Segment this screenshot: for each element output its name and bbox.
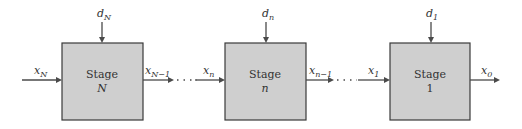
stage-block-N: Stage N dN xN xN−1	[22, 7, 174, 120]
stage-title: Stage	[249, 68, 281, 81]
stage-index: 1	[427, 82, 434, 95]
decision-label: dn	[262, 7, 274, 22]
decision-label: d1	[426, 7, 438, 22]
stage-title: Stage	[86, 68, 118, 81]
stage-title: Stage	[414, 68, 446, 81]
arrowhead-icon	[428, 37, 434, 43]
output-label: x0	[481, 64, 492, 79]
arrowhead-icon	[219, 77, 225, 83]
stage-block-1: Stage 1 d1 x1 x0	[358, 7, 500, 120]
input-label: x1	[368, 64, 379, 79]
stage-index: n	[261, 82, 268, 95]
arrowhead-icon	[494, 77, 500, 83]
output-label: xn−1	[309, 64, 332, 79]
arrowhead-icon	[56, 77, 62, 83]
input-label: xN	[34, 64, 48, 79]
decision-label: dN	[97, 7, 112, 22]
stage-chain-diagram: Stage N dN xN xN−1 Stage n dn xn xn−1 St…	[0, 0, 522, 129]
output-label: xN−1	[145, 64, 170, 79]
stage-block-n: Stage n dn xn xn−1	[195, 7, 334, 120]
stage-index: N	[96, 82, 107, 95]
input-label: xn	[203, 64, 214, 79]
arrowhead-icon	[263, 37, 269, 43]
arrowhead-icon	[384, 77, 390, 83]
arrowhead-icon	[99, 37, 105, 43]
